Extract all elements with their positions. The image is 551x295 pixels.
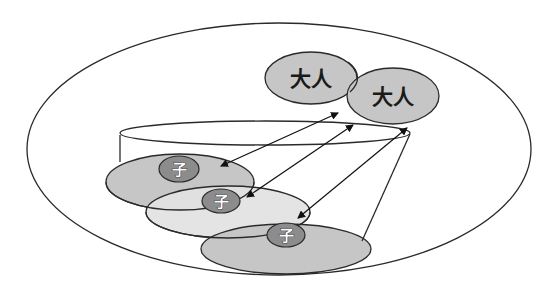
child-badge-1: 子 bbox=[159, 156, 199, 182]
adult-label-2: 大人 bbox=[372, 85, 414, 109]
child-label-1: 子 bbox=[172, 161, 187, 179]
child-badge-2: 子 bbox=[202, 189, 240, 213]
cone-top-ellipse bbox=[120, 121, 410, 145]
adult-group-2: 大人 bbox=[347, 68, 439, 124]
adult-group-1: 大人 bbox=[265, 52, 357, 104]
child-badge-3: 子 bbox=[267, 223, 305, 247]
adult-child-relationship-diagram: 子 子 子 大人 大人 bbox=[0, 0, 551, 295]
cone-right-edge bbox=[362, 134, 410, 241]
child-label-2: 子 bbox=[214, 193, 229, 211]
child-label-3: 子 bbox=[279, 227, 294, 245]
adult-label-1: 大人 bbox=[290, 67, 332, 91]
